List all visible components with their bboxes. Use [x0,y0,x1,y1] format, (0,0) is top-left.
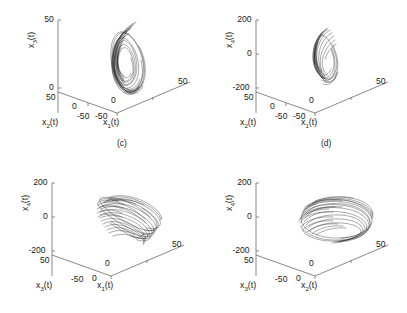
ytick-panel-c-1: 0 [72,101,77,111]
xtick-panel-bottom-left-0: -50 [71,274,83,284]
zaxis-title-panel-d-sub: 4 [229,40,236,43]
zaxis-title-panel-c-sub: 3 [31,40,38,43]
zaxis-title-panel-bottom-right-base: x [224,207,234,211]
ztick-panel-d-2: -200 [232,82,249,92]
zaxis-title-panel-d: x4(t) [224,32,236,48]
xaxis-title-panel-bottom-right: x2(t) [301,280,317,292]
ztick-panel-c-1: 0 [49,82,54,92]
xtick-panel-bottom-right-1: 0 [309,258,314,268]
xaxis-title-panel-d-suffix: (t) [309,117,317,127]
xtick-panel-bottom-left-1: 0 [105,258,110,268]
y-axis-line-c [58,92,117,113]
zaxis-title-panel-bottom-right-sub: 4 [229,203,236,206]
yaxis-title-panel-bottom-right: x3(t) [240,280,256,292]
xaxis-title-panel-bottom-left-suffix: (t) [105,280,113,290]
ytick-panel-c-0: 50 [46,92,56,102]
yaxis-title-panel-bottom-right-suffix: (t) [248,280,256,290]
xaxis-title-panel-bottom-left: x1(t) [97,280,113,292]
figure-canvas: (c) [0,0,407,313]
zaxis-title-panel-c-base: x [26,44,36,48]
x-axis-line-d [315,82,388,113]
ztick-panel-bottom-left-0: 200 [33,177,47,187]
ztick-panel-c-0: 50 [44,14,54,24]
xtick-panel-c-0: -50 [77,111,89,121]
trajectory-bottom-left [97,196,162,245]
x-axis-line-br [315,245,388,276]
y-axis-line-bl [52,255,111,276]
xaxis-title-panel-c-suffix: (t) [111,117,119,127]
caption-d: (d) [321,138,331,148]
ztick-panel-bottom-left-2: -200 [28,245,45,255]
xtick-panel-d-0: -50 [275,111,287,121]
yaxis-title-panel-bottom-left-suffix: (t) [44,280,52,290]
xtick-panel-bottom-left-2: 50 [172,239,182,249]
xaxis-title-panel-c: x1(t) [103,117,119,129]
xaxis-title-panel-bottom-right-suffix: (t) [309,280,317,290]
zaxis-title-panel-d-base: x [224,44,234,48]
trajectory-c [111,22,146,94]
zaxis-title-panel-bottom-left-base: x [20,207,30,211]
zaxis-title-panel-d-suffix: (t) [224,32,234,40]
zaxis-title-panel-bottom-right-suffix: (t) [224,195,234,203]
ztick-panel-bottom-left-1: 0 [43,211,48,221]
ztick-panel-d-1: 0 [247,48,252,58]
xtick-panel-c-2: 50 [178,76,188,86]
xtick-panel-bottom-right-2: 50 [376,239,386,249]
ztick-panel-bottom-right-0: 200 [237,177,251,187]
xtick-panel-c-1: 0 [111,95,116,105]
ytick-panel-bottom-left-0: 50 [40,255,50,265]
yaxis-title-panel-d-suffix: (t) [248,117,256,127]
x-axis-line-c [117,82,190,113]
zaxis-title-panel-c-suffix: (t) [26,32,36,40]
yaxis-title-panel-c: x2(t) [42,117,58,129]
y-axis-line-d [256,92,315,113]
zaxis-title-panel-bottom-right: x4(t) [224,195,236,211]
zaxis-title-panel-bottom-left: x4(t) [20,195,32,211]
trajectory-bottom-right [299,197,373,243]
ztick-panel-bottom-right-1: 0 [247,211,252,221]
yaxis-title-panel-d: x2(t) [240,117,256,129]
ytick-panel-d-1: 0 [270,101,275,111]
ztick-panel-d-0: 200 [237,14,251,24]
xaxis-title-panel-d: x1(t) [301,117,317,129]
trajectory-d [313,28,338,85]
zaxis-title-panel-bottom-left-sub: 4 [25,203,32,206]
caption-c: (c) [117,138,127,148]
y-axis-line-br [256,255,315,276]
zaxis-title-panel-bottom-left-suffix: (t) [20,195,30,203]
xtick-panel-bottom-right-0: -50 [275,274,287,284]
x-axis-line-bl [111,245,184,276]
yaxis-title-panel-c-suffix: (t) [50,117,58,127]
ytick-panel-d-0: 50 [244,92,254,102]
zaxis-title-panel-c: x3(t) [26,32,38,48]
xtick-panel-d-1: 0 [309,95,314,105]
ytick-panel-bottom-right-0: 50 [244,255,254,265]
yaxis-title-panel-bottom-left: x3(t) [36,280,52,292]
xtick-panel-d-2: 50 [376,76,386,86]
subplot-panel-c: (c) [0,0,203,156]
ztick-panel-bottom-right-2: -200 [232,245,249,255]
